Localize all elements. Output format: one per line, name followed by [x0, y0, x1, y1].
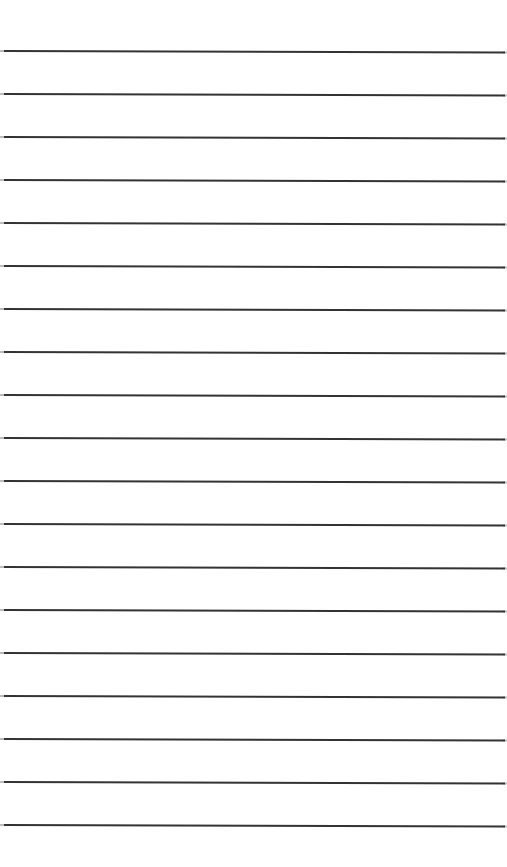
ruled-line	[0, 309, 507, 311]
ruled-line	[0, 567, 507, 569]
ruled-line	[0, 696, 507, 698]
ruled-line	[0, 739, 507, 741]
ruled-line	[0, 395, 507, 397]
ruled-line	[0, 94, 507, 96]
ruled-line	[0, 524, 507, 526]
ruled-line	[0, 266, 507, 268]
lined-paper-sheet	[0, 0, 507, 867]
ruled-line	[0, 180, 507, 182]
ruled-line	[0, 653, 507, 655]
ruled-line	[0, 481, 507, 483]
ruled-lines	[0, 0, 507, 867]
ruled-line	[0, 352, 507, 354]
ruled-line	[0, 782, 507, 784]
ruled-line	[0, 825, 507, 827]
ruled-line	[0, 610, 507, 612]
ruled-line	[0, 438, 507, 440]
ruled-line	[0, 137, 507, 139]
ruled-line	[0, 223, 507, 225]
ruled-line	[0, 51, 507, 53]
